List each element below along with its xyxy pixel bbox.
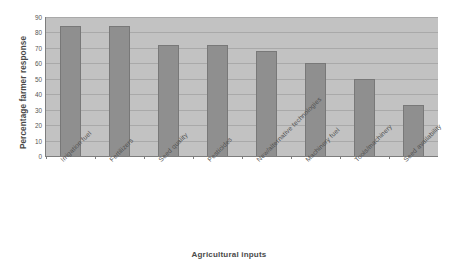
- y-tick-label: 80: [35, 29, 42, 36]
- y-tick-label: 90: [35, 14, 42, 21]
- bar[interactable]: [60, 26, 82, 156]
- y-axis-tick-labels: 0102030405060708090: [22, 17, 42, 156]
- y-tick-label: 50: [35, 75, 42, 82]
- y-tick-label: 70: [35, 44, 42, 51]
- bar-slot: [193, 17, 242, 156]
- y-tick-label: 40: [35, 91, 42, 98]
- y-tick-label: 30: [35, 106, 42, 113]
- bar-slot: [95, 17, 144, 156]
- x-axis-title: Agricultural inputs: [0, 250, 458, 259]
- y-tick-label: 0: [38, 153, 42, 160]
- x-axis-category-labels: Irrigation fuelFertilizersSeed qualityPe…: [45, 158, 437, 238]
- y-tick-label: 10: [35, 137, 42, 144]
- bar[interactable]: [109, 26, 131, 156]
- bar-chart: Percentage farmer response 0102030405060…: [0, 0, 458, 270]
- y-tick-label: 20: [35, 122, 42, 129]
- y-tick-label: 60: [35, 60, 42, 67]
